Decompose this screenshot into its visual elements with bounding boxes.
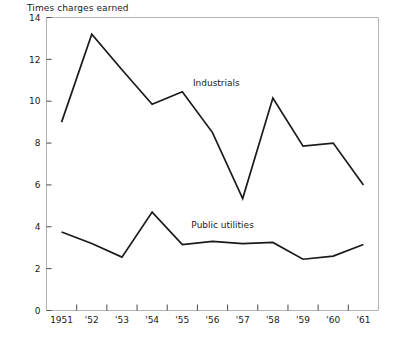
x-tick-label: '55: [175, 315, 189, 325]
y-tick-label: 12: [29, 55, 40, 65]
y-tick-label: 0: [35, 306, 41, 316]
plot-frame: [47, 18, 379, 311]
x-tick-label: 1951: [50, 315, 73, 325]
x-tick-label: '58: [266, 315, 280, 325]
y-tick-label: 10: [29, 96, 41, 106]
x-tick-label: '53: [115, 315, 129, 325]
x-axis-ticks: 1951'52'53'54'55'56'57'58'59'60'61: [50, 305, 370, 325]
y-tick-label: 8: [35, 138, 41, 148]
y-axis-ticks: 02468101214: [29, 13, 51, 316]
series-line-1: [62, 34, 364, 198]
series-label-1: Industrials: [193, 78, 240, 88]
plot-area: 02468101214 1951'52'53'54'55'56'57'58'59…: [0, 0, 394, 339]
line-chart: Times charges earned 02468101214 1951'52…: [0, 0, 394, 339]
x-tick-label: '56: [206, 315, 220, 325]
x-tick-label: '52: [85, 315, 99, 325]
x-tick-label: '61: [356, 315, 370, 325]
x-tick-label: '57: [236, 315, 250, 325]
x-tick-label: '54: [145, 315, 159, 325]
y-tick-label: 6: [35, 180, 41, 190]
y-tick-label: 14: [29, 13, 41, 23]
frame-border: [47, 18, 379, 311]
y-tick-label: 2: [35, 264, 41, 274]
series-label-2: Public utilities: [191, 220, 254, 230]
x-tick-label: '59: [296, 315, 310, 325]
y-tick-label: 4: [35, 222, 41, 232]
x-tick-label: '60: [326, 315, 340, 325]
